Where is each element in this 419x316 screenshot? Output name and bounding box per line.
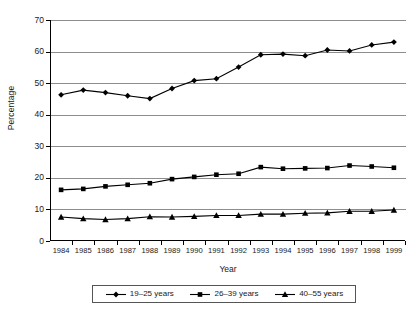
data-point-marker <box>125 183 130 188</box>
data-point-marker <box>347 163 352 168</box>
data-point-marker <box>103 184 108 189</box>
legend-marker-triangle-icon <box>274 289 296 300</box>
data-point-marker <box>236 64 242 70</box>
data-point-marker <box>281 166 286 171</box>
data-point-marker <box>325 166 330 171</box>
data-point-marker <box>280 51 286 57</box>
series-line <box>61 210 394 219</box>
data-point-marker <box>391 39 397 45</box>
data-point-marker <box>214 172 219 177</box>
legend-label: 26–39 years <box>214 289 258 299</box>
data-point-marker <box>258 165 263 170</box>
data-point-marker <box>80 87 86 93</box>
legend-label: 19–25 years <box>130 289 174 299</box>
data-point-marker <box>324 47 330 53</box>
data-point-marker <box>169 86 175 92</box>
data-point-marker <box>170 177 175 182</box>
line-chart: Percentage 010203040506070 1984198519861… <box>0 0 419 316</box>
data-point-marker <box>392 165 397 170</box>
data-point-marker <box>81 187 86 192</box>
x-axis-title: Year <box>50 264 406 274</box>
data-point-marker <box>191 78 197 84</box>
series-2 <box>59 163 396 192</box>
data-point-marker <box>125 93 131 99</box>
legend-marker-square-icon <box>189 289 211 300</box>
series-line <box>61 42 394 99</box>
series-1 <box>58 39 397 101</box>
chart-legend: 19–25 years26–39 years40–55 years <box>92 285 356 303</box>
legend-marker-diamond-icon <box>105 289 127 300</box>
data-point-marker <box>58 92 64 98</box>
legend-item-1[interactable]: 19–25 years <box>105 289 174 300</box>
data-point-marker <box>302 53 308 59</box>
data-point-marker <box>303 166 308 171</box>
data-point-marker <box>148 181 153 186</box>
legend-item-3[interactable]: 40–55 years <box>274 289 343 300</box>
data-point-marker <box>147 96 153 102</box>
data-point-marker <box>258 52 264 58</box>
data-point-marker <box>192 175 197 180</box>
data-point-marker <box>347 48 353 54</box>
data-point-marker <box>369 164 374 169</box>
data-point-marker <box>236 171 241 176</box>
series-3 <box>58 207 397 222</box>
data-point-marker <box>214 76 220 82</box>
series-line <box>61 166 394 190</box>
data-point-marker <box>103 90 109 96</box>
data-point-marker <box>59 188 64 193</box>
data-point-marker <box>369 42 375 48</box>
legend-label: 40–55 years <box>299 289 343 299</box>
legend-item-2[interactable]: 26–39 years <box>189 289 258 300</box>
